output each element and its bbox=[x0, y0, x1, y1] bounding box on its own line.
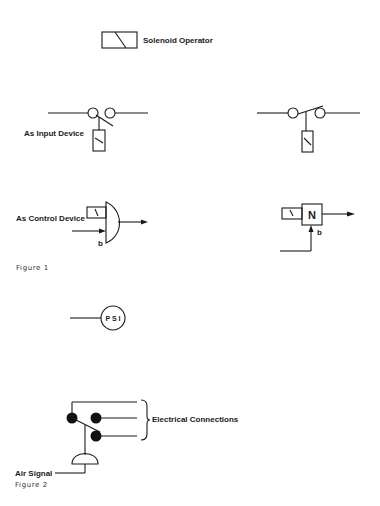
input-arrow-icon bbox=[99, 229, 106, 234]
air-signal-label: Air Signal bbox=[15, 469, 52, 478]
figure-1-caption: Figure 1 bbox=[16, 264, 49, 272]
input-device-switch-closed bbox=[257, 106, 360, 152]
control-device-label: As Control Device bbox=[16, 214, 85, 223]
diagram-canvas: Solenoid Operator As Input Device b As C… bbox=[0, 0, 380, 506]
n-block-label: N bbox=[308, 209, 316, 221]
electrical-connections-label: Electrical Connections bbox=[152, 415, 239, 424]
input-device-label: As Input Device bbox=[24, 129, 85, 138]
output-arrow-icon bbox=[347, 212, 355, 217]
control-input-marker: b bbox=[98, 239, 103, 248]
solenoid-operator-label: Solenoid Operator bbox=[143, 36, 213, 45]
input-arrow-icon bbox=[309, 225, 314, 232]
output-arrow-icon bbox=[141, 220, 148, 225]
solenoid-operator-symbol bbox=[102, 32, 137, 48]
psi-label: P S I bbox=[105, 315, 120, 322]
pressure-switch-electrical-diagram bbox=[55, 400, 150, 473]
figure-2-caption: Figure 2 bbox=[15, 481, 48, 489]
n-block-input-marker: b bbox=[317, 228, 322, 237]
